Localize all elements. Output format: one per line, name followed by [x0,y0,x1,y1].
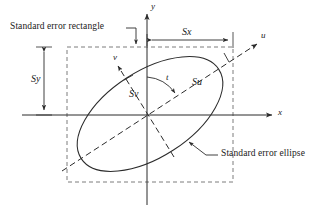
x-axis-label: x [278,107,282,117]
figure-canvas [0,0,325,212]
sv-dimension-label: Sv [129,88,138,99]
su-subscript: u [197,76,202,87]
sv-subscript: v [134,88,138,99]
standard-error-ellipse-figure: Standard error rectangle Standard error … [0,0,325,212]
sx-dimension-label: Sx [182,26,191,37]
ellipse-callout-leader [189,142,218,155]
sy-dimension-label: Sy [31,73,40,84]
u-axis-label: u [261,30,266,40]
sv-tick-mark [124,75,133,80]
rectangle-callout-label: Standard error rectangle [10,21,104,31]
sx-subscript: x [187,26,191,37]
su-tick-mark [224,53,229,62]
ellipse-callout-label: Standard error ellipse [221,148,305,158]
rectangle-callout-leader [126,28,136,44]
y-axis-label: y [151,1,155,11]
v-axis-label: v [113,52,117,62]
su-dimension-label: Su [192,76,202,87]
angle-arc-t [147,77,175,93]
sy-subscript: y [36,73,40,84]
angle-label: t [166,72,169,82]
